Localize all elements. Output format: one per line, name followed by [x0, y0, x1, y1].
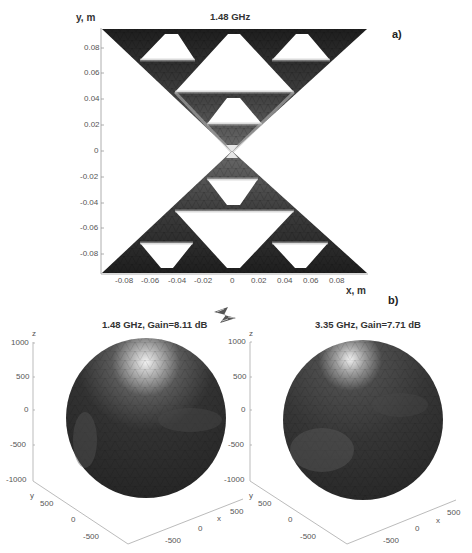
y-tick: -0.02	[80, 173, 98, 181]
y-tick: -0.04	[80, 199, 98, 207]
left-x-tick: 500	[230, 508, 243, 516]
left-z-tick: 500	[16, 373, 29, 381]
left-x-axis-label: x	[217, 515, 221, 523]
y-tick: -0.08	[80, 250, 98, 258]
panel-a-label: a)	[392, 29, 402, 40]
left-y-tick: -500	[83, 533, 99, 541]
x-tick: -0.02	[194, 277, 212, 285]
left-z-tick: -500	[10, 441, 26, 449]
x-tick: 0.08	[329, 277, 345, 285]
right-y-axis-label: y	[249, 492, 253, 500]
right-z-tick: -1000	[224, 476, 244, 484]
left-y-tick: 500	[40, 500, 53, 508]
x-tick: 0.04	[277, 277, 293, 285]
bowtie-antenna-icon	[214, 307, 236, 323]
right-x-axis-label: x	[436, 517, 440, 525]
x-tick: 0	[230, 277, 234, 285]
left-z-tick: -1000	[6, 476, 26, 484]
left-z-axis-label: z	[32, 330, 36, 338]
y-tick: 0.04	[84, 95, 100, 103]
x-tick: -0.08	[115, 277, 133, 285]
x-tick: 0.02	[251, 277, 267, 285]
right-z-tick: 1000	[228, 338, 246, 346]
x-tick: -0.04	[168, 277, 186, 285]
y-tick: -0.06	[80, 224, 98, 232]
y-tick: 0	[94, 147, 98, 155]
left-x-tick: 0	[198, 525, 202, 533]
right-radiation-pattern-sphere	[283, 340, 443, 500]
right-z-tick: -500	[228, 441, 244, 449]
panel-a-title: 1.48 GHz	[210, 12, 250, 22]
left-x-tick: -500	[165, 537, 181, 545]
y-tick: 0.02	[84, 121, 100, 129]
y-tick: 0.06	[84, 69, 100, 77]
left-radiation-pattern-sphere	[66, 338, 226, 498]
figure-canvas	[0, 0, 472, 553]
y-tick: 0.08	[84, 44, 100, 52]
right-x-tick: -500	[383, 537, 399, 545]
right-z-tick: 0	[241, 406, 245, 414]
x-axis-label: x, m	[346, 286, 366, 296]
x-tick: -0.06	[141, 277, 159, 285]
right-y-tick: 500	[258, 500, 271, 508]
right-z-tick: 500	[233, 373, 246, 381]
sierpinski-bowtie-antenna	[102, 29, 367, 273]
x-tick: 0.06	[303, 277, 319, 285]
right-x-tick: 0	[415, 525, 419, 533]
right-y-tick: 0	[288, 516, 292, 524]
left-pattern-title: 1.48 GHz, Gain=8.11 dB	[102, 320, 207, 330]
right-x-tick: 500	[447, 509, 460, 517]
left-y-tick: 0	[71, 516, 75, 524]
y-axis-label: y, m	[76, 13, 95, 23]
right-z-axis-label: z	[249, 330, 253, 338]
right-pattern-title: 3.35 GHz, Gain=7.71 dB	[315, 320, 421, 330]
left-z-tick: 1000	[11, 339, 29, 347]
left-z-tick: 0	[24, 406, 28, 414]
left-y-axis-label: y	[30, 492, 34, 500]
right-y-tick: -500	[300, 533, 316, 541]
panel-b-label: b)	[388, 295, 398, 306]
